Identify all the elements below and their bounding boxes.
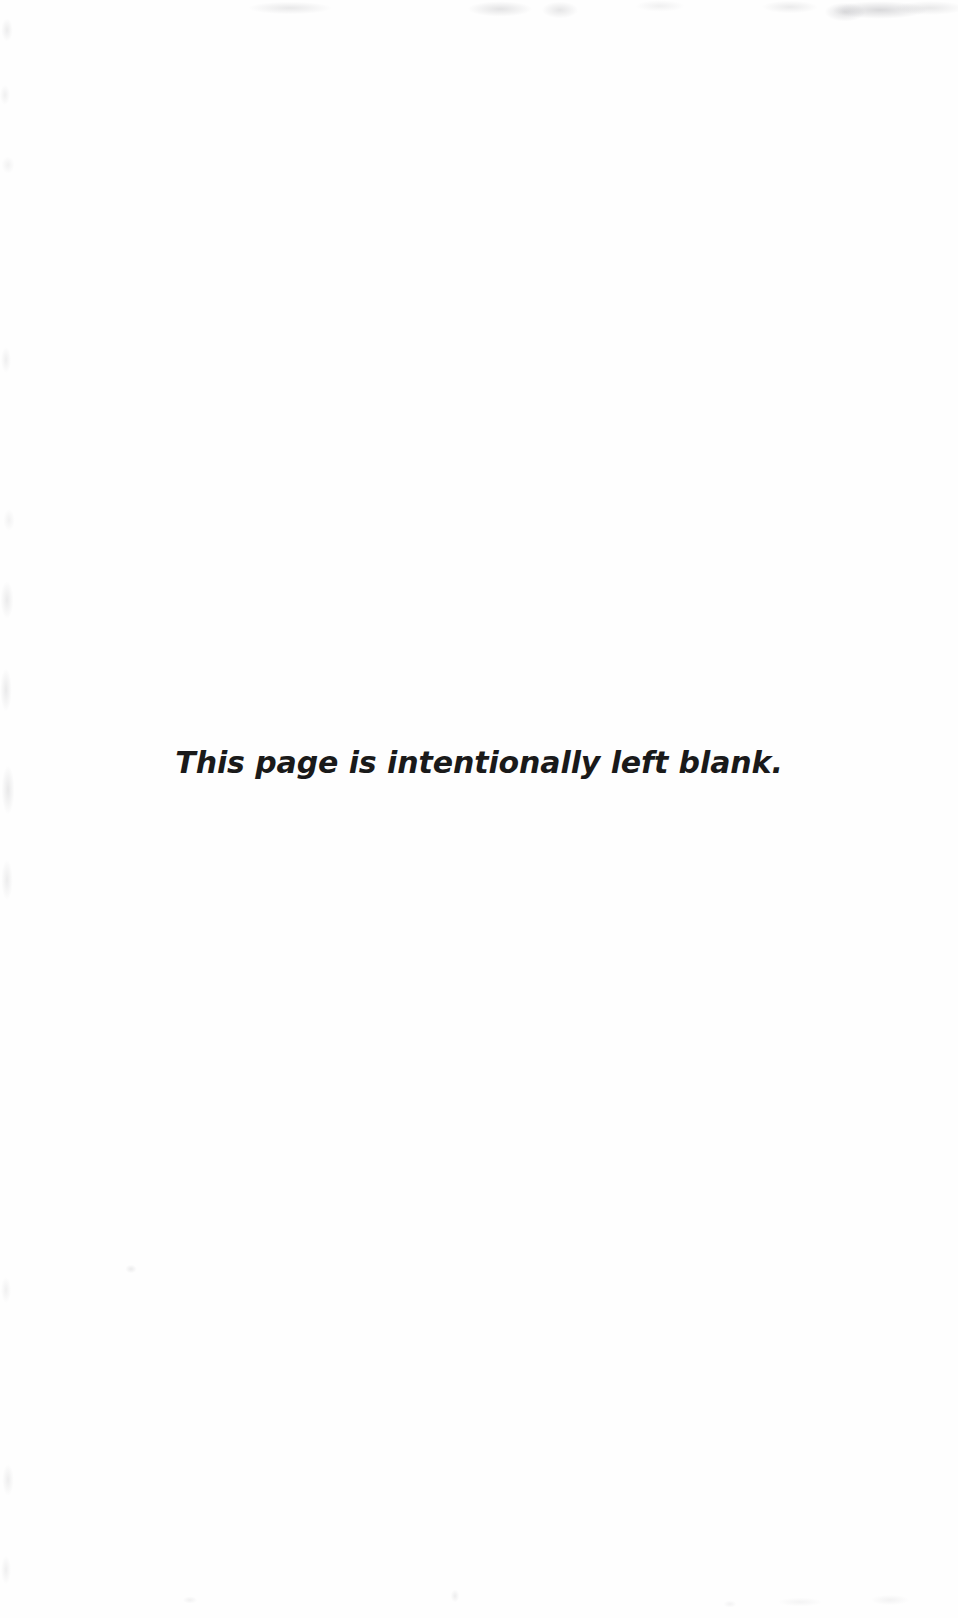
scan-artifact-left-edge: [0, 0, 22, 1618]
scan-artifact-lower-left-speck: [122, 1262, 140, 1276]
scan-artifact-top-edge: [0, 0, 958, 26]
document-page: This page is intentionally left blank.: [0, 0, 958, 1618]
blank-page-notice: This page is intentionally left blank.: [0, 743, 958, 783]
scan-artifact-bottom-edge: [0, 1578, 958, 1618]
